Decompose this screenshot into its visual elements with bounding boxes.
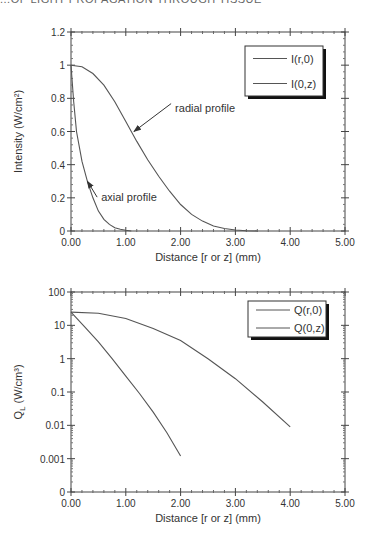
legend-entry-label: Q(0,z) [294, 322, 325, 334]
y-axis-label: QL (W/cm³) [12, 364, 27, 419]
y-tick-label: 1.2 [51, 27, 65, 38]
legend-entry-label: I(r,0) [291, 53, 314, 65]
x-tick-label: 5.00 [335, 498, 355, 509]
x-tick-label: 0.00 [61, 498, 81, 509]
annotation-label: axial profile [101, 191, 157, 203]
y-tick-label: 0.2 [51, 193, 65, 204]
y-tick-label: 0.6 [51, 127, 65, 138]
x-tick-label: 3.00 [226, 237, 246, 248]
y-tick-label: 0.01 [46, 420, 66, 431]
y-axis-label: Intensity (W/cm²) [12, 90, 24, 173]
series-line-I(r,0) [71, 65, 257, 231]
y-tick-label: 0.1 [51, 387, 65, 398]
x-axis-label: Distance [r or z] (mm) [155, 251, 261, 263]
charts-canvas: 0.001.002.003.004.005.0000.20.40.60.811.… [0, 0, 372, 554]
y-tick-label: 100 [48, 287, 65, 298]
x-tick-label: 1.00 [116, 498, 136, 509]
y-tick-label: 0.4 [51, 160, 65, 171]
x-tick-label: 0.00 [61, 237, 81, 248]
y-tick-label: 1 [59, 60, 65, 71]
y-tick-label: 0.8 [51, 93, 65, 104]
y-tick-label: 0 [59, 487, 65, 498]
series-line-I(0,z) [71, 65, 131, 231]
x-axis-label: Distance [r or z] (mm) [155, 512, 261, 524]
chart-1: 0.001.002.003.004.005.0000.20.40.60.811.… [12, 27, 355, 263]
chart-2: 0.001.002.003.004.005.0000.0010.010.1110… [12, 287, 355, 524]
annotation-arrow [134, 104, 171, 132]
legend: Q(r,0)Q(0,z) [248, 301, 329, 340]
x-tick-label: 5.00 [335, 237, 355, 248]
annotation-label: radial profile [175, 102, 235, 114]
legend-entry-label: Q(r,0) [294, 304, 322, 316]
x-tick-label: 2.00 [171, 237, 191, 248]
x-tick-label: 2.00 [171, 498, 191, 509]
y-tick-label: 0 [59, 226, 65, 237]
x-tick-label: 3.00 [226, 498, 246, 509]
x-tick-label: 4.00 [280, 498, 300, 509]
legend: I(r,0)I(0,z) [245, 46, 326, 99]
y-tick-label: 0.001 [40, 454, 65, 465]
x-tick-label: 4.00 [280, 237, 300, 248]
y-tick-label: 10 [54, 320, 66, 331]
y-tick-label: 1 [59, 354, 65, 365]
x-tick-label: 1.00 [116, 237, 136, 248]
legend-entry-label: I(0,z) [291, 78, 316, 90]
